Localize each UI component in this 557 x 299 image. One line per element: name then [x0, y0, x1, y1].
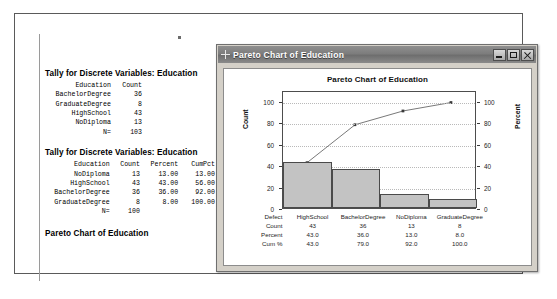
- table-row: HighSchool 43 43.00 56.00: [45, 179, 215, 188]
- cell: NoDiploma: [45, 170, 115, 179]
- pareto-chart-heading: Pareto Chart of Education: [45, 229, 215, 238]
- cell: 36.00: [145, 188, 182, 197]
- table-row: BachelorDegree 36: [45, 90, 147, 99]
- bar-graduatedegree: [429, 199, 478, 208]
- cell: HighSchool: [45, 179, 115, 188]
- table-row: BachelorDegree 36 36.00 92.00: [45, 188, 215, 197]
- table-row: Count 43 36 13 8: [234, 221, 484, 230]
- minimize-button[interactable]: [493, 49, 506, 61]
- y-tick-label-right: 80: [484, 120, 491, 127]
- spacer: [45, 216, 215, 229]
- cell: 36.0: [339, 230, 387, 239]
- cell: 13.00: [145, 170, 182, 179]
- y-tick-mark-right: [477, 209, 480, 210]
- maximize-button[interactable]: [507, 49, 520, 61]
- cell: 100.0: [436, 239, 484, 248]
- category-data-table: Defect HighSchool BachelorDegree NoDiplo…: [234, 212, 484, 248]
- table-row: Cum % 43.0 79.0 92.0 100.0: [234, 239, 484, 248]
- tally1-table: Education Count BachelorDegree 36 Gradua…: [45, 81, 147, 137]
- graph-window[interactable]: Pareto Chart of Education Pareto Chart o…: [216, 44, 538, 272]
- tally1-header-education: Education: [45, 81, 116, 90]
- graph-window-title: Pareto Chart of Education: [233, 50, 492, 60]
- line-marker: [402, 110, 405, 113]
- table-row: N= 100: [45, 207, 215, 216]
- y-tick-mark-right: [477, 145, 480, 146]
- cell: 36: [115, 188, 145, 197]
- cell: 8.00: [145, 198, 182, 207]
- table-row: GraduateDegree 8: [45, 100, 147, 109]
- row-label-defect: Defect: [234, 212, 286, 221]
- cell: BachelorDegree: [45, 90, 116, 99]
- y-tick-label-right: 60: [484, 141, 491, 148]
- tally2-header-count: Count: [115, 160, 145, 169]
- cell: 43: [116, 109, 147, 118]
- session-output-pane: Tally for Discrete Variables: Education …: [45, 69, 215, 241]
- cell: 100.00: [182, 198, 215, 207]
- y-axis-label-right: Percent: [514, 104, 521, 129]
- cell: 13.00: [182, 170, 215, 179]
- document-frame: Tally for Discrete Variables: Education …: [14, 13, 523, 274]
- bar-nodiploma: [380, 194, 429, 208]
- cell: 8: [436, 221, 484, 230]
- y-tick-label-right: 100: [484, 98, 495, 105]
- cell: GraduateDegree: [436, 212, 484, 221]
- cell: 43.00: [145, 179, 182, 188]
- cell: 100: [115, 207, 145, 216]
- y-tick-mark-left: [279, 209, 282, 210]
- text-caret-marker: [178, 36, 181, 39]
- cell: 43: [286, 221, 338, 230]
- table-row: GraduateDegree 8 8.00 100.00: [45, 198, 215, 207]
- crosshair-icon: [221, 50, 230, 59]
- plot-area: [282, 91, 476, 209]
- table-row: HighSchool 43: [45, 109, 147, 118]
- y-tick-label-right: 40: [484, 163, 491, 170]
- table-row: Percent 43.0 36.0 13.0 8.0: [234, 230, 484, 239]
- y-tick-label-left: 100: [263, 98, 274, 105]
- tally1-title: Tally for Discrete Variables: Education: [45, 69, 215, 78]
- session-divider-rule: [39, 34, 40, 281]
- cell: 79.0: [339, 239, 387, 248]
- y-tick-label-right: 20: [484, 184, 491, 191]
- cell: 8: [115, 198, 145, 207]
- cell: 103: [116, 128, 147, 137]
- table-row: NoDiploma 13: [45, 118, 147, 127]
- cell: 8: [116, 100, 147, 109]
- bar-highschool: [283, 162, 332, 208]
- chart-title: Pareto Chart of Education: [224, 75, 531, 84]
- cell: GraduateDegree: [45, 100, 116, 109]
- close-button[interactable]: [521, 49, 534, 61]
- row-label-cumpct: Cum %: [234, 239, 286, 248]
- cell: N=: [45, 128, 116, 137]
- gridline: [283, 103, 475, 104]
- cell: HighSchool: [45, 109, 116, 118]
- bar-bachelordegree: [332, 169, 381, 208]
- cell: 92.0: [387, 239, 435, 248]
- spacer: [45, 137, 215, 148]
- cell: HighSchool: [286, 212, 338, 221]
- cell: 43.0: [286, 230, 338, 239]
- y-tick-mark-right: [477, 166, 480, 167]
- y-tick-mark-right: [477, 102, 480, 103]
- cell: 8.0: [436, 230, 484, 239]
- cell: 43: [115, 179, 145, 188]
- tally2-table: Education Count Percent CumPct NoDiploma…: [45, 160, 215, 216]
- tally2-header-percent: Percent: [145, 160, 182, 169]
- cell: [145, 207, 182, 216]
- table-row: N= 103: [45, 128, 147, 137]
- cell: 36: [339, 221, 387, 230]
- y-tick-mark-right: [477, 123, 480, 124]
- tally2-header-education: Education: [45, 160, 115, 169]
- cell: N=: [45, 207, 115, 216]
- cell: 92.00: [182, 188, 215, 197]
- cell: BachelorDegree: [45, 188, 115, 197]
- graph-window-titlebar[interactable]: Pareto Chart of Education: [218, 46, 536, 63]
- cell: 13: [116, 118, 147, 127]
- cell: [182, 207, 215, 216]
- gridline: [283, 146, 475, 147]
- y-tick-mark-right: [477, 188, 480, 189]
- cell: 13: [387, 221, 435, 230]
- cell: GraduateDegree: [45, 198, 115, 207]
- graph-canvas: Pareto Chart of Education Count Percent …: [223, 68, 532, 266]
- cell: BachelorDegree: [339, 212, 387, 221]
- cell: NoDiploma: [387, 212, 435, 221]
